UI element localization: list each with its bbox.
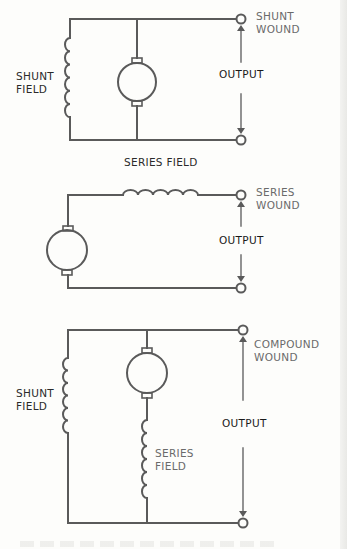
series-field-coil [123,190,198,195]
series-wound-circuit [47,190,246,293]
generator-armature [127,353,167,393]
series-wound-label: SERIES WOUND [256,186,300,212]
compound-wound-circuit [63,326,248,528]
generator-armature [118,63,156,101]
series-field-label: SERIES FIELD [124,156,198,169]
generator-armature [47,230,87,270]
bleed-through-text [20,541,280,547]
compound-wound-label: COMPOUND WOUND [254,338,319,364]
series-field-coil [142,420,147,498]
output-label: OUTPUT [222,417,267,430]
shunt-field-coil [65,38,70,117]
output-label: OUTPUT [219,68,264,81]
shunt-wound-label: SHUNT WOUND [256,10,300,36]
shunt-field-coil [63,358,68,433]
shunt-field-label: SHUNT FIELD [16,70,54,96]
shunt-field-label: SHUNT FIELD [16,387,54,413]
output-label: OUTPUT [219,234,264,247]
series-field-label: SERIES FIELD [155,447,194,473]
